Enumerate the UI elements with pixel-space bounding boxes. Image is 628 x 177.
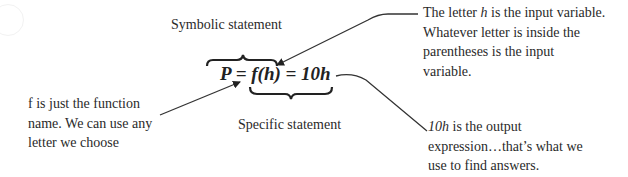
- output-expression-line: [336, 75, 427, 131]
- function-equation: P = f(h) = 10h: [220, 63, 331, 85]
- note-line: parentheses is the input: [423, 42, 605, 62]
- function-name-arrow: [160, 82, 240, 115]
- note-text: The letter: [423, 5, 481, 20]
- input-variable-arrow: [277, 14, 418, 65]
- function-name-note: f is just the function name. We can use …: [28, 94, 152, 153]
- note-line: f is just the function: [28, 94, 152, 114]
- italic-expression-10h: 10h: [428, 119, 449, 134]
- note-text: is the input variable.: [488, 5, 606, 20]
- italic-variable-h: h: [481, 5, 488, 20]
- note-line: letter we choose: [28, 133, 152, 153]
- output-expression-note: 10h is the output expression…that’s what…: [428, 117, 583, 176]
- note-line: variable.: [423, 62, 605, 82]
- note-line: expression…that’s what we: [428, 137, 583, 157]
- specific-statement-label: Specific statement: [238, 115, 341, 134]
- input-variable-note: The letter h is the input variable. What…: [423, 3, 605, 81]
- note-text: is the output: [449, 119, 522, 134]
- note-line: The letter h is the input variable.: [423, 3, 605, 23]
- bottom-brace: [250, 87, 332, 99]
- note-line: 10h is the output: [428, 117, 583, 137]
- note-line: use to find answers.: [428, 156, 583, 176]
- note-line: name. We can use any: [28, 114, 152, 134]
- note-line: Whatever letter is inside the: [423, 23, 605, 43]
- symbolic-statement-label: Symbolic statement: [171, 15, 282, 34]
